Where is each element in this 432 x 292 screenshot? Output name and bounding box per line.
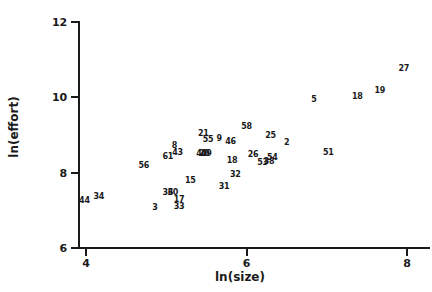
- data-point-32: 32: [230, 171, 241, 179]
- data-point-2: 2: [284, 139, 289, 147]
- data-point-30: 30: [167, 189, 178, 197]
- x-tick-4: [85, 249, 87, 256]
- x-tick-6: [246, 249, 248, 256]
- data-point-5: 5: [311, 96, 316, 104]
- data-point-20: 20: [199, 150, 210, 158]
- y-axis-title: ln(effort): [7, 79, 21, 175]
- data-point-58: 58: [241, 123, 252, 131]
- data-point-51: 51: [323, 149, 334, 157]
- y-tick-12: [71, 21, 79, 23]
- data-point-15: 15: [185, 177, 196, 185]
- x-tick-label-4: 4: [75, 257, 97, 270]
- data-point-18: 18: [227, 157, 238, 165]
- data-point-25: 25: [265, 132, 276, 140]
- y-tick-8: [71, 172, 79, 174]
- data-point-55: 55: [203, 136, 214, 144]
- data-point-26: 26: [248, 151, 259, 159]
- x-axis-line: [78, 247, 430, 249]
- x-tick-label-6: 6: [236, 257, 258, 270]
- data-point-8: 8: [172, 142, 177, 150]
- data-point-19: 19: [374, 87, 385, 95]
- data-point-44: 44: [79, 197, 90, 205]
- y-tick-6: [71, 247, 79, 249]
- data-point-43: 43: [172, 149, 183, 157]
- y-tick-label-10: 10: [45, 91, 67, 104]
- x-axis-title: ln(size): [180, 270, 300, 284]
- y-tick-label-8: 8: [45, 167, 67, 180]
- x-tick-label-8: 8: [396, 257, 418, 270]
- data-point-56: 56: [138, 162, 149, 170]
- x-tick-8: [406, 249, 408, 256]
- y-tick-label-6: 6: [45, 242, 67, 255]
- data-point-54: 54: [267, 154, 278, 162]
- data-point-31: 31: [219, 183, 230, 191]
- data-point-46: 46: [225, 138, 236, 146]
- y-tick-label-12: 12: [45, 16, 67, 29]
- data-point-18b: 18: [352, 93, 363, 101]
- scatter-plot: 681012468 443433317363015315661324384049…: [0, 0, 432, 292]
- data-point-17: 17: [174, 196, 185, 204]
- data-point-34: 34: [94, 193, 105, 201]
- data-point-3: 3: [152, 204, 157, 212]
- data-point-33: 33: [174, 203, 185, 211]
- y-axis-line: [78, 21, 80, 249]
- y-tick-10: [71, 96, 79, 98]
- data-point-27: 27: [399, 65, 410, 73]
- data-point-9: 9: [217, 135, 222, 143]
